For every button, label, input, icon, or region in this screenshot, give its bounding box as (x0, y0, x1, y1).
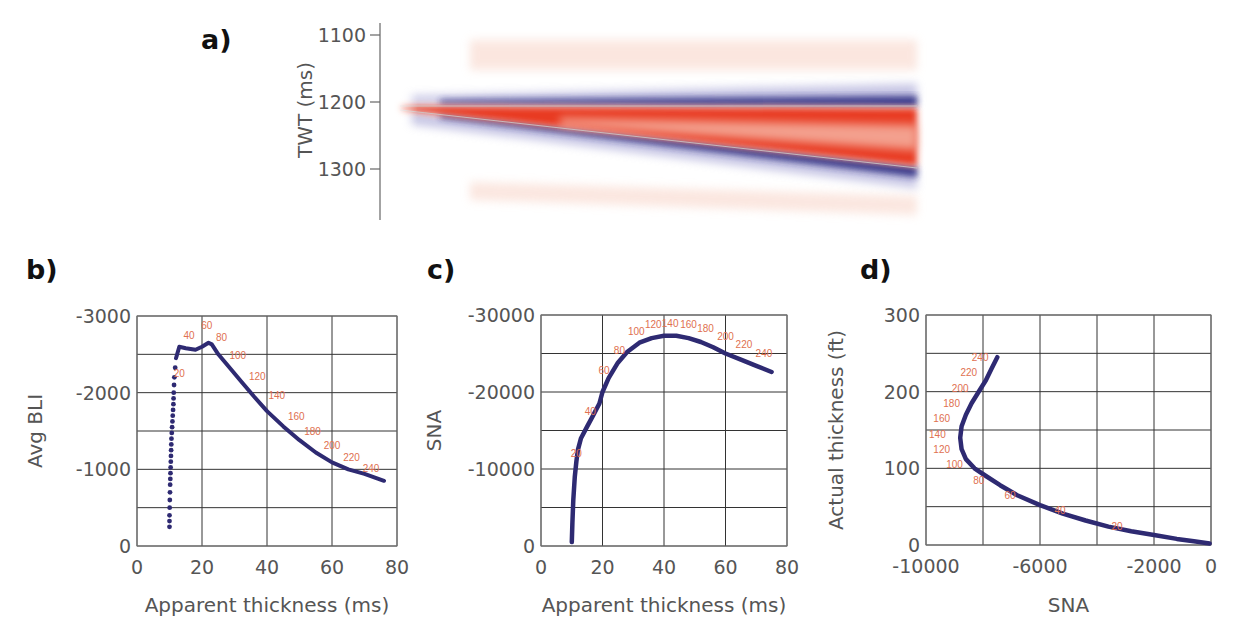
annotation-label: 40 (1054, 505, 1066, 516)
annotation-label: 80 (973, 475, 985, 486)
annotation-label: 140 (929, 429, 946, 440)
annotation-label: 180 (943, 398, 960, 409)
grid (926, 315, 1211, 545)
annotation-label: 60 (1005, 490, 1017, 501)
actual-thickness-vs-sna-chart: -10000-6000-200000100200300SNAActual thi… (0, 0, 1242, 638)
annotation-label: 200 (952, 383, 969, 394)
x-tick-label: -2000 (1126, 555, 1181, 577)
y-tick-label: 100 (884, 457, 920, 479)
x-tick-label: -10000 (892, 555, 959, 577)
annotation-label: 120 (933, 444, 950, 455)
x-tick-label: 0 (1205, 555, 1217, 577)
annotation-label: 100 (946, 459, 963, 470)
annotation-label: 160 (933, 413, 950, 424)
annotation-label: 20 (1111, 521, 1123, 532)
y-axis-title: Actual thickness (ft) (824, 330, 848, 530)
thickness-annotations: 20406080100120140160180200220240 (929, 352, 1123, 532)
x-axis-title: SNA (1048, 593, 1090, 617)
annotation-label: 220 (960, 367, 977, 378)
y-tick-label: 0 (908, 534, 920, 556)
annotation-label: 240 (972, 352, 989, 363)
y-tick-label: 300 (884, 304, 920, 326)
y-tick-label: 200 (884, 381, 920, 403)
data-series (960, 357, 1209, 543)
x-tick-label: -6000 (1012, 555, 1067, 577)
